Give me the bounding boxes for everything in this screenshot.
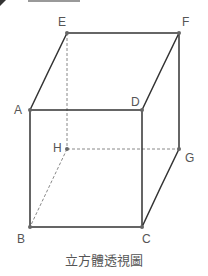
- vertex-D: [140, 108, 144, 112]
- vertex-B: [28, 225, 32, 229]
- vertex-F: [177, 31, 181, 35]
- vertex-A: [28, 108, 32, 112]
- edge-GC: [142, 149, 179, 227]
- front-face: [30, 110, 142, 227]
- edge-HB: [30, 149, 67, 227]
- vertex-dots: [28, 31, 181, 229]
- label-B: B: [17, 233, 25, 245]
- vertex-E: [65, 31, 69, 35]
- label-H: H: [53, 142, 62, 154]
- label-D: D: [131, 96, 140, 108]
- cube-diagram: [0, 0, 208, 276]
- label-C: C: [142, 233, 151, 245]
- diagram-caption: 立方體透視圖: [0, 250, 208, 269]
- vertex-C: [140, 225, 144, 229]
- label-G: G: [185, 152, 194, 164]
- label-E: E: [58, 16, 66, 28]
- corner-mark: [0, 0, 6, 6]
- edge-FD: [142, 33, 179, 110]
- label-A: A: [14, 104, 22, 116]
- edge-AE: [30, 33, 67, 110]
- visible-edges: [30, 33, 179, 227]
- label-F: F: [182, 16, 189, 28]
- vertex-H: [65, 147, 69, 151]
- vertex-G: [177, 147, 181, 151]
